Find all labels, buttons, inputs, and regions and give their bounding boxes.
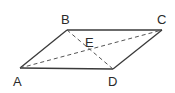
side-cd [113, 30, 162, 69]
vertex-label-b: B [61, 12, 70, 27]
parallelogram-diagram: A B C D E [0, 0, 175, 93]
vertex-label-a: A [13, 74, 22, 89]
side-ab [20, 30, 67, 68]
side-da [20, 68, 113, 69]
vertex-label-c: C [157, 12, 166, 27]
vertex-label-d: D [108, 74, 117, 89]
intersection-label-e: E [85, 35, 94, 50]
